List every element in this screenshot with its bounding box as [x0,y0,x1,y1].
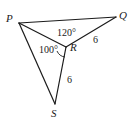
vertex-label-s: S [51,108,57,119]
vertex-label-p: P [6,13,13,24]
geometry-canvas [0,0,132,124]
segment-ps [19,23,55,104]
vertex-label-r: R [70,42,77,53]
vertex-label-q: Q [119,10,127,21]
segment-pq [19,17,116,23]
geometry-figure: P Q R S 120° 100° 6 6 [0,0,132,124]
angle-label-qrp: 120° [57,28,76,38]
side-length-label-rs: 6 [67,75,72,85]
side-length-label-rq: 6 [93,35,98,45]
angle-label-prs: 100° [39,45,58,55]
